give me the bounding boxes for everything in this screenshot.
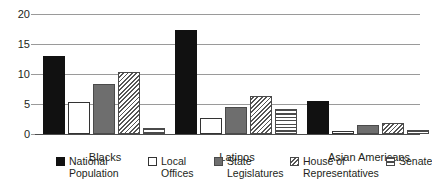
y-tick-label-15: 15	[18, 39, 30, 50]
bar-group-blacks	[43, 14, 163, 134]
legend-swatch-national-population-icon	[56, 157, 65, 166]
legend-item-local-offices: LocalOffices	[148, 155, 193, 179]
legend-item-national-population: NationalPopulation	[56, 155, 119, 179]
legend-item-senate: Senate	[386, 155, 432, 167]
legend-label-national-population: NationalPopulation	[69, 155, 119, 179]
bar-blacks-state-legislatures	[93, 84, 115, 134]
tick-stub-0	[31, 134, 35, 135]
bar-asian-americans-state-legislatures	[357, 125, 379, 134]
y-tick-label-0: 0	[24, 129, 30, 140]
legend-label-senate: Senate	[399, 155, 432, 167]
bar-asian-americans-national-population	[307, 101, 329, 134]
bar-latinos-house-of-representatives	[250, 96, 272, 134]
legend-item-house-of-representatives: House ofRepresentatives	[290, 155, 379, 179]
bar-asian-americans-house-of-representatives	[382, 123, 404, 134]
bar-blacks-local-offices	[68, 102, 90, 134]
bar-asian-americans-senate	[407, 130, 429, 134]
legend-label-house-of-representatives: House ofRepresentatives	[303, 155, 379, 179]
y-tick-label-5: 5	[24, 99, 30, 110]
x-axis-baseline: 0	[35, 134, 420, 135]
bar-asian-americans-local-offices	[332, 131, 354, 134]
legend-item-state-legislatures: StateLegislatures	[214, 155, 284, 179]
bar-blacks-house-of-representatives	[118, 72, 140, 134]
bar-latinos-state-legislatures	[225, 107, 247, 134]
bar-blacks-senate	[143, 128, 165, 134]
legend-swatch-senate-icon	[386, 157, 395, 166]
bar-group-asian-americans	[307, 14, 427, 134]
plot-area: 20 15 10 5 0	[35, 14, 420, 134]
y-tick-label-10: 10	[18, 69, 30, 80]
y-tick-label-20: 20	[18, 9, 30, 20]
legend-swatch-house-of-representatives-icon	[290, 157, 299, 166]
bar-latinos-national-population	[175, 30, 197, 134]
legend-label-local-offices: LocalOffices	[161, 155, 193, 179]
legend-swatch-local-offices-icon	[148, 157, 157, 166]
bars-layer	[35, 14, 420, 134]
legend-label-state-legislatures: StateLegislatures	[227, 155, 284, 179]
chart-legend: NationalPopulation LocalOffices StateLeg…	[56, 155, 416, 187]
bar-latinos-senate	[275, 109, 297, 134]
bar-blacks-national-population	[43, 56, 65, 134]
bar-group-latinos	[175, 14, 295, 134]
legend-swatch-state-legislatures-icon	[214, 157, 223, 166]
bar-latinos-local-offices	[200, 118, 222, 134]
